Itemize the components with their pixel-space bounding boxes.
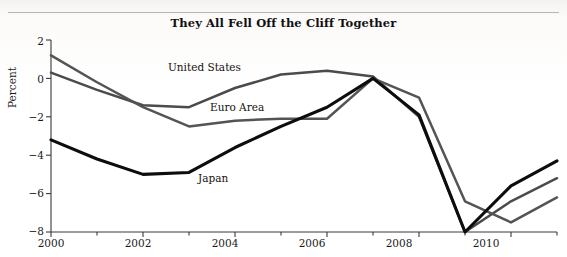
series-line-euro-area — [51, 55, 557, 222]
series-lines — [51, 55, 557, 232]
figure-container: They All Fell Off the Cliff Together Per… — [0, 0, 567, 257]
x-tick-marks — [51, 232, 557, 237]
y-tick-marks — [46, 40, 51, 232]
plot-area — [0, 0, 567, 257]
axis-lines — [51, 40, 557, 232]
